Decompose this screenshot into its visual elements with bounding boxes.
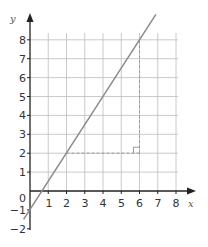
y-tick-label: −2 [10,223,26,236]
x-axis-label: x [188,198,194,209]
y-tick-label: −1 [10,204,26,217]
y-tick-label: 1 [19,166,26,179]
x-axis-arrow-icon [187,188,196,195]
axes [30,20,190,230]
x-tick-labels: 1 2 3 4 5 6 7 8 [46,197,180,210]
y-tick-label: 2 [19,147,26,160]
right-angle-marker [134,147,140,153]
coordinate-graph: 1 2 3 4 5 6 7 8 x 0 −1 −2 1 2 3 4 5 6 7 … [0,0,208,247]
x-tick-label: 8 [173,197,180,210]
y-tick-label: 3 [19,128,26,141]
y-tick-label: 6 [19,72,26,85]
y-tick-label: 7 [19,53,26,66]
x-tick-label: 4 [100,197,107,210]
y-tick-label: 8 [19,34,26,47]
x-tick-label: 2 [63,197,70,210]
y-tick-label: 5 [19,91,26,104]
y-axis-label: y [9,13,16,24]
x-tick-label: 6 [136,197,143,210]
data-line [24,14,156,219]
x-tick-label: 7 [155,197,162,210]
grid [30,33,178,191]
x-tick-label: 5 [118,197,125,210]
x-tick-label: 3 [82,197,89,210]
y-axis-arrow-icon [27,13,34,22]
y-tick-labels: 0 −1 −2 1 2 3 4 5 6 7 8 [10,34,26,237]
y-tick-label: 4 [19,109,26,122]
x-tick-label: 1 [46,197,53,210]
